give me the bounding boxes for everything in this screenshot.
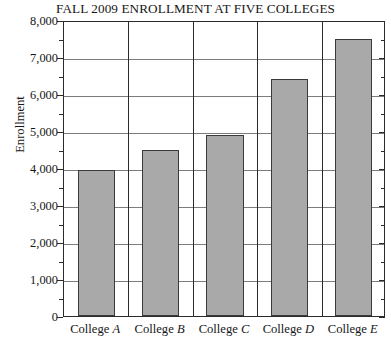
y-tick-minor <box>59 77 63 78</box>
y-tick-label: 7,000 <box>0 51 58 66</box>
bar <box>335 39 372 317</box>
y-tick-label: 5,000 <box>0 125 58 140</box>
y-tick-minor <box>59 225 63 226</box>
x-tick-label-letter: B <box>177 322 185 336</box>
x-tick-label-letter: A <box>113 322 121 336</box>
x-tick-label-word: College <box>328 322 370 336</box>
y-tick-minor-right <box>381 262 385 263</box>
y-tick-minor-right <box>381 40 385 41</box>
category-separator <box>128 22 129 316</box>
y-tick-minor <box>59 262 63 263</box>
x-tick-label-letter: C <box>241 322 249 336</box>
y-tick-label: 4,000 <box>0 162 58 177</box>
y-tick-minor-right <box>381 77 385 78</box>
x-tick-label: College A <box>63 322 127 337</box>
y-tick-minor <box>59 151 63 152</box>
y-tick-minor <box>59 114 63 115</box>
y-tick-major-right <box>379 280 385 281</box>
y-tick-label: 8,000 <box>0 14 58 29</box>
y-tick-major-right <box>379 169 385 170</box>
x-tick-label-word: College <box>199 322 241 336</box>
y-tick-minor-right <box>381 114 385 115</box>
y-tick-major-right <box>379 206 385 207</box>
chart-title: FALL 2009 ENROLLMENT AT FIVE COLLEGES <box>0 1 391 17</box>
y-tick-major-right <box>379 243 385 244</box>
y-tick-minor <box>59 40 63 41</box>
x-tick-label-word: College <box>70 322 112 336</box>
category-separator <box>257 22 258 316</box>
x-tick-label: College E <box>321 322 385 337</box>
y-tick-label: 6,000 <box>0 88 58 103</box>
bar-chart: FALL 2009 ENROLLMENT AT FIVE COLLEGES En… <box>0 0 391 351</box>
x-tick-label: College B <box>127 322 191 337</box>
y-tick-minor-right <box>381 188 385 189</box>
x-tick-label: College C <box>192 322 256 337</box>
y-tick-major-right <box>379 95 385 96</box>
x-tick-label-letter: E <box>370 322 378 336</box>
x-tick-label-word: College <box>135 322 177 336</box>
y-tick-label: 0 <box>0 310 58 325</box>
bar <box>78 170 115 316</box>
category-separator <box>322 22 323 316</box>
y-tick-minor-right <box>381 225 385 226</box>
y-tick-label: 1,000 <box>0 273 58 288</box>
y-tick-label: 3,000 <box>0 199 58 214</box>
x-tick-label-letter: D <box>305 322 314 336</box>
y-tick-minor <box>59 299 63 300</box>
bar <box>206 135 243 316</box>
y-tick-major-right <box>379 21 385 22</box>
y-tick-minor-right <box>381 151 385 152</box>
y-tick-minor <box>59 188 63 189</box>
x-tick-label-word: College <box>263 322 305 336</box>
plot-area <box>63 21 385 317</box>
bar <box>142 150 179 317</box>
y-tick-major-right <box>379 58 385 59</box>
bar <box>271 79 308 316</box>
y-tick-minor-right <box>381 299 385 300</box>
category-separator <box>193 22 194 316</box>
y-tick-label: 2,000 <box>0 236 58 251</box>
x-tick-label: College D <box>256 322 320 337</box>
y-tick-major-right <box>379 132 385 133</box>
y-tick-major-right <box>379 317 385 318</box>
